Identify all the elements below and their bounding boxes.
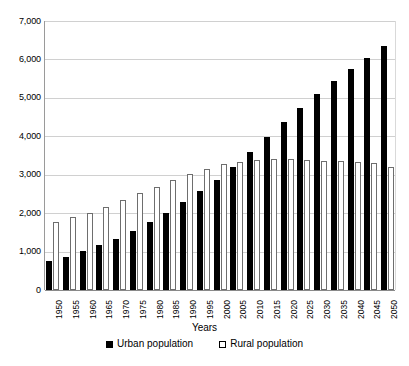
bar-group — [346, 21, 363, 290]
y-axis-tick-label: 5,000 — [1, 93, 41, 102]
x-axis-tick-label: 1975 — [139, 289, 148, 319]
x-axis-tick-label: 1955 — [72, 289, 81, 319]
bar-group — [128, 21, 145, 290]
bar-group — [161, 21, 178, 290]
bar-rural — [221, 164, 227, 290]
bar-urban — [348, 69, 354, 290]
y-axis-tick-label: 6,000 — [1, 55, 41, 64]
legend-label-urban: Urban population — [117, 338, 193, 350]
bar-rural — [355, 162, 361, 290]
y-axis-tick-label: 4,000 — [1, 132, 41, 141]
bar-group — [262, 21, 279, 290]
x-axis-tick-label: 1950 — [55, 289, 64, 319]
x-axis-tick-label: 2010 — [256, 289, 265, 319]
x-axis-tick-label: 2020 — [290, 289, 299, 319]
bar-group — [111, 21, 128, 290]
x-axis-tick-label: 2040 — [357, 289, 366, 319]
x-axis-tick-label: 1960 — [89, 289, 98, 319]
bar-urban — [331, 81, 337, 290]
y-axis: 01,0002,0003,0004,0005,0006,0007,000 — [0, 0, 41, 366]
bar-group — [78, 21, 95, 290]
bar-rural — [237, 162, 243, 290]
x-axis-tick-label: 1970 — [122, 289, 131, 319]
x-axis-tick-label: 2035 — [340, 289, 349, 319]
x-axis-tick-label: 2050 — [390, 289, 399, 319]
bar-urban — [113, 239, 119, 290]
bar-urban — [230, 167, 236, 290]
x-axis-tick-label: 1980 — [156, 289, 165, 319]
bar-group — [312, 21, 329, 290]
bar-urban — [130, 231, 136, 290]
bar-urban — [180, 202, 186, 290]
bar-rural — [187, 174, 193, 290]
bar-rural — [371, 163, 377, 290]
bar-group — [195, 21, 212, 290]
bar-rural — [87, 213, 93, 290]
bar-urban — [247, 152, 253, 290]
bar-group — [94, 21, 111, 290]
bar-rural — [271, 159, 277, 290]
bar-group — [61, 21, 78, 290]
x-axis-tick-label: 1985 — [172, 289, 181, 319]
bar-rural — [137, 193, 143, 290]
bar-urban — [163, 213, 169, 290]
bar-chart: 01,0002,0003,0004,0005,0006,0007,000 195… — [0, 0, 409, 366]
y-axis-tick-label: 3,000 — [1, 170, 41, 179]
bar-group — [212, 21, 229, 290]
bar-rural — [53, 222, 59, 290]
x-axis-tick-label: 1995 — [206, 289, 215, 319]
bar-rural — [254, 160, 260, 290]
x-axis-title: Years — [0, 322, 409, 334]
bar-rural — [304, 160, 310, 290]
bar-rural — [154, 187, 160, 290]
x-axis-tick-label: 2025 — [306, 289, 315, 319]
bar-urban — [314, 94, 320, 290]
bar-rural — [288, 159, 294, 290]
bar-group — [295, 21, 312, 290]
bar-rural — [338, 161, 344, 290]
bar-urban — [297, 108, 303, 290]
x-axis-tick-label: 1990 — [189, 289, 198, 319]
bar-urban — [63, 257, 69, 290]
y-axis-tick-label: 1,000 — [1, 247, 41, 256]
y-axis-tick-label: 7,000 — [1, 17, 41, 26]
bar-rural — [120, 200, 126, 290]
legend-item-rural: Rural population — [219, 338, 303, 350]
bar-group — [379, 21, 396, 290]
x-axis-tick-label: 2000 — [223, 289, 232, 319]
bar-group — [228, 21, 245, 290]
bar-urban — [147, 222, 153, 290]
bar-urban — [364, 58, 370, 290]
bar-urban — [197, 191, 203, 290]
legend-item-urban: Urban population — [106, 338, 193, 350]
legend-swatch-rural-icon — [219, 341, 226, 348]
y-axis-tick-label: 0 — [1, 286, 41, 295]
bar-rural — [103, 207, 109, 290]
bar-group — [44, 21, 61, 290]
bar-urban — [214, 180, 220, 290]
x-axis-tick-label: 1965 — [105, 289, 114, 319]
bar-group — [145, 21, 162, 290]
x-axis-tick-label: 2005 — [239, 289, 248, 319]
x-axis-tick-label: 2045 — [373, 289, 382, 319]
bar-group — [245, 21, 262, 290]
bars-layer — [44, 21, 396, 290]
bar-urban — [96, 245, 102, 290]
x-axis: 1950195519601965197019751980198519901995… — [44, 291, 396, 323]
bar-urban — [46, 261, 52, 290]
bar-rural — [321, 161, 327, 291]
y-axis-tick-label: 2,000 — [1, 209, 41, 218]
bar-rural — [204, 169, 210, 290]
bar-group — [362, 21, 379, 290]
legend-swatch-urban-icon — [106, 341, 113, 348]
bar-rural — [170, 180, 176, 290]
x-axis-tick-label: 2030 — [323, 289, 332, 319]
legend-label-rural: Rural population — [230, 338, 303, 350]
x-axis-tick-label: 2015 — [273, 289, 282, 319]
bar-urban — [381, 46, 387, 290]
bar-group — [279, 21, 296, 290]
bar-urban — [281, 122, 287, 290]
bar-group — [178, 21, 195, 290]
bar-group — [329, 21, 346, 290]
bar-rural — [70, 217, 76, 290]
